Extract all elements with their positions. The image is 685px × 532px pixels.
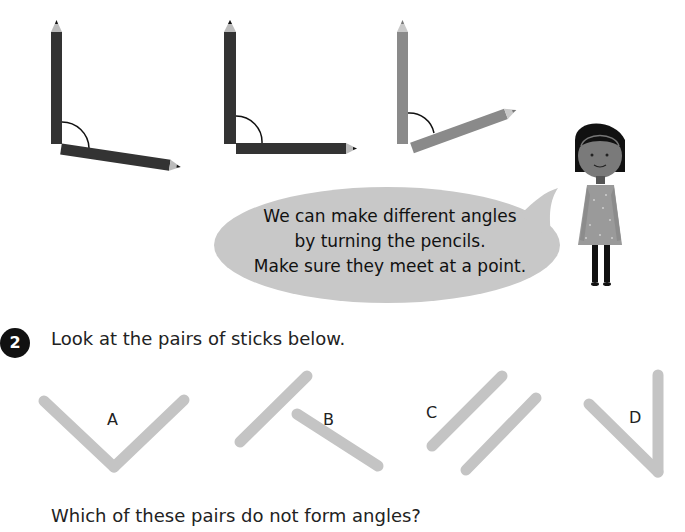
pair-label-b: B <box>323 410 334 429</box>
pencil-pair-3 <box>397 20 518 153</box>
bubble-line-1: We can make different angles <box>222 204 558 229</box>
girl-character <box>575 124 625 287</box>
question-number-badge: 2 <box>0 328 30 358</box>
stick-pairs <box>44 375 658 472</box>
pencil-pair-2 <box>224 20 357 154</box>
stick-c-1 <box>432 376 502 446</box>
stick-b-2 <box>297 414 378 466</box>
stick-a-left <box>44 401 114 467</box>
speech-bubble-text: We can make different angles by turning … <box>222 204 558 279</box>
stick-d-1 <box>589 404 658 472</box>
stick-a-right <box>114 400 184 467</box>
pencil-pair-1 <box>51 20 181 172</box>
pair-label-d: D <box>629 408 641 427</box>
follow-up-question: Which of these pairs do not form angles? <box>51 505 421 526</box>
pair-label-c: C <box>426 403 437 422</box>
pair-label-a: A <box>107 410 118 429</box>
bubble-line-2: by turning the pencils. <box>222 229 558 254</box>
bubble-line-3: Make sure they meet at a point. <box>222 254 558 279</box>
question-prompt: Look at the pairs of sticks below. <box>51 328 345 349</box>
